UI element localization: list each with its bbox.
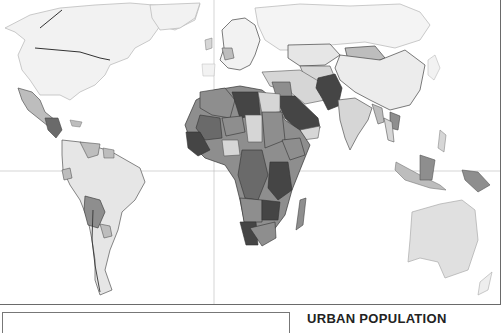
region-afghanistan-pakistan — [316, 74, 342, 110]
region-kazakhstan — [288, 44, 340, 66]
region-australia — [408, 200, 478, 278]
region-nigeria — [222, 140, 240, 156]
choropleth-map — [0, 0, 500, 304]
region-europe — [220, 18, 260, 70]
legend-box — [2, 312, 290, 333]
region-philippines — [438, 130, 446, 152]
region-chad — [245, 115, 262, 142]
region-madagascar — [296, 198, 306, 230]
region-niger — [222, 116, 245, 136]
world-map — [0, 0, 501, 305]
region-greenland — [150, 3, 200, 30]
region-russia — [255, 4, 430, 50]
legend-title: URBAN POPULATION — [307, 311, 447, 326]
region-guyanas — [103, 148, 114, 158]
region-uk — [205, 38, 212, 50]
region-borneo — [420, 155, 435, 180]
region-new-zealand — [478, 272, 492, 295]
region-myanmar — [372, 104, 384, 124]
region-south-america — [62, 140, 145, 295]
region-japan — [428, 55, 440, 80]
region-central-america — [45, 118, 62, 138]
region-angola — [240, 198, 262, 222]
region-egypt — [258, 92, 280, 114]
region-iberia — [202, 64, 215, 76]
region-new-guinea — [462, 170, 490, 192]
region-zambia-zimbabwe — [262, 200, 280, 220]
region-ecuador — [62, 168, 72, 180]
region-india — [338, 98, 372, 150]
